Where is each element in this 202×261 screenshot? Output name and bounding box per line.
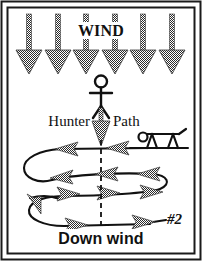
down-wind-label: Down wind [0, 231, 202, 247]
figure-number-label: #2 [167, 212, 182, 227]
hunting-pattern-figure: WIND Hunter Path Down wind #2 [0, 0, 202, 261]
wind-label: WIND [0, 23, 202, 39]
path-label: Path [113, 114, 189, 129]
hunter-label: Hunter [14, 114, 90, 129]
